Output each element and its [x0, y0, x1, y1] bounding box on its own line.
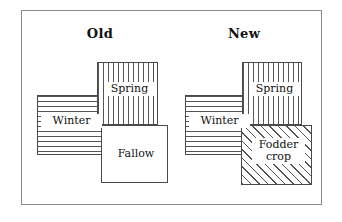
block-label-winter-new: Winter [189, 114, 250, 128]
block-label-fallow-old: Fallow [110, 147, 162, 161]
block-label-winter-old: Winter [41, 114, 102, 128]
block-label-spring-new: Spring [249, 82, 300, 96]
block-label-fodder-crop-new: Fodder crop [252, 138, 305, 164]
group-title-old: Old [60, 26, 140, 41]
block-label-spring-old: Spring [104, 82, 155, 96]
group-title-new: New [204, 26, 284, 41]
fodder-crop-label-line2: crop [266, 150, 291, 163]
crop-rotation-diagram: Old Winter Spring Fallow New Winter Spri… [0, 0, 342, 222]
